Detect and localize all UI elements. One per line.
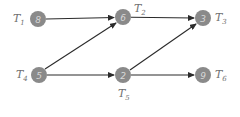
node-T3: 3 T3	[195, 10, 227, 26]
node-value: 8	[35, 15, 41, 25]
edges	[45, 17, 196, 75]
node-T2: 6 T2	[115, 2, 146, 25]
edge-T2-T3	[131, 17, 194, 18]
edge-T5-T3	[130, 24, 196, 70]
task-label: T5	[118, 87, 130, 102]
node-value: 5	[36, 71, 42, 81]
node-T5: 2 T5	[115, 67, 131, 102]
node-T6: 9 T6	[195, 67, 227, 83]
node-value: 9	[200, 71, 206, 81]
task-label: T1	[13, 12, 25, 27]
node-value: 2	[120, 71, 126, 81]
node-value: 6	[120, 13, 126, 23]
edge-T1-T2	[46, 18, 114, 20]
node-value: 3	[200, 14, 206, 24]
task-label: T2	[134, 2, 146, 17]
node-T1: 8 T1	[13, 11, 46, 27]
task-label: T6	[215, 68, 227, 83]
node-T4: 5 T4	[16, 67, 47, 83]
task-label: T3	[215, 11, 227, 26]
task-graph: 8 T1 6 T2 3 T3 5 T4 2 T5 9 T6	[0, 0, 240, 117]
edge-T4-T2	[45, 23, 116, 69]
task-label: T4	[16, 68, 28, 83]
